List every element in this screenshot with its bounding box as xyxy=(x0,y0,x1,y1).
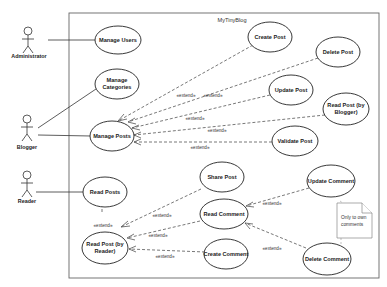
actor-administrator-label: Administrator xyxy=(11,53,47,59)
note-line-2: comments xyxy=(341,222,364,227)
svg-text:«extend»: «extend» xyxy=(153,213,172,218)
use-case-update-post[interactable]: Update Post xyxy=(269,75,313,105)
extend-update-post: «extend» xyxy=(132,95,270,130)
svg-text:«extend»: «extend» xyxy=(263,246,282,251)
svg-text:Share Post: Share Post xyxy=(207,174,236,180)
use-case-share-post[interactable]: Share Post xyxy=(200,162,244,192)
actor-blogger: Blogger xyxy=(17,115,38,150)
extend-update-comment: «extend» xyxy=(246,188,309,207)
svg-text:«extend»: «extend» xyxy=(177,93,196,98)
svg-text:«extend»: «extend» xyxy=(156,254,175,259)
actor-reader-label: Reader xyxy=(18,198,37,204)
svg-text:Read Comment: Read Comment xyxy=(203,211,244,217)
svg-text:Create Comment: Create Comment xyxy=(204,251,249,257)
use-case-diagram: MyTinyBlog Administrator Blogger Reader … xyxy=(0,0,387,287)
system-title: MyTinyBlog xyxy=(217,17,246,23)
use-case-read-post-reader[interactable]: Read Post (by Reader) xyxy=(82,232,128,264)
extend-share-post: «extend» xyxy=(121,189,201,227)
use-case-read-post-blogger[interactable]: Read Post (by Blogger) xyxy=(323,93,369,125)
use-case-read-posts[interactable]: Read Posts xyxy=(83,177,127,207)
svg-text:Blogger): Blogger) xyxy=(335,109,358,115)
note: Only to own comments xyxy=(337,201,372,244)
use-case-update-comment[interactable]: Update Comment xyxy=(307,165,355,197)
use-case-validate-post[interactable]: Validate Post xyxy=(272,126,318,156)
use-case-delete-post[interactable]: Delete Post xyxy=(316,37,360,67)
extend-create-comment: «extend» xyxy=(129,246,205,259)
svg-text:«extend»: «extend» xyxy=(149,233,168,238)
use-case-manage-posts[interactable]: Manage Posts xyxy=(90,121,134,151)
svg-text:Update Comment: Update Comment xyxy=(308,178,354,184)
use-case-delete-comment[interactable]: Delete Comment xyxy=(303,243,351,275)
svg-text:Validate Post: Validate Post xyxy=(278,138,313,144)
svg-text:Update Post: Update Post xyxy=(275,87,308,93)
extend-delete-comment: «extend» xyxy=(245,223,306,251)
svg-text:«extend»: «extend» xyxy=(204,93,223,98)
note-line-1: Only to own xyxy=(341,215,367,220)
svg-text:«extend»: «extend» xyxy=(263,201,282,206)
svg-text:Reader): Reader) xyxy=(95,248,116,254)
svg-text:Manage: Manage xyxy=(107,77,128,83)
assoc-blogger-manage-categories xyxy=(38,89,96,128)
use-case-create-comment[interactable]: Create Comment xyxy=(204,239,249,269)
svg-text:Categories: Categories xyxy=(103,84,132,90)
svg-text:«extend»: «extend» xyxy=(186,116,205,121)
svg-text:«extend»: «extend» xyxy=(94,223,113,228)
svg-text:Read Post (by: Read Post (by xyxy=(327,102,365,108)
extend-validate-post: «extend» xyxy=(134,139,272,150)
use-case-manage-users[interactable]: Manage Users xyxy=(95,26,141,54)
use-case-create-post[interactable]: Create Post xyxy=(248,22,292,52)
use-case-manage-categories[interactable]: Manage Categories xyxy=(95,69,139,99)
use-case-read-comment[interactable]: Read Comment xyxy=(200,199,248,229)
svg-text:Read Post (by: Read Post (by xyxy=(86,241,124,247)
svg-text:Delete Comment: Delete Comment xyxy=(305,256,349,262)
svg-text:Delete Post: Delete Post xyxy=(323,49,354,55)
assoc-blogger-manage-posts xyxy=(38,135,91,136)
svg-text:Manage Users: Manage Users xyxy=(99,37,137,43)
svg-text:«extend»: «extend» xyxy=(191,145,210,150)
extend-read-comment: «extend» xyxy=(127,221,200,240)
svg-text:Create Post: Create Post xyxy=(254,34,285,40)
actor-reader: Reader xyxy=(18,171,37,204)
svg-text:Manage Posts: Manage Posts xyxy=(93,133,131,139)
actor-administrator: Administrator xyxy=(11,27,47,59)
svg-text:«extend»: «extend» xyxy=(208,128,227,133)
svg-text:Read Posts: Read Posts xyxy=(90,189,120,195)
actor-blogger-label: Blogger xyxy=(17,144,38,150)
